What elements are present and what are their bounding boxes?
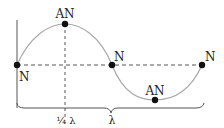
antinode-label-top: AN bbox=[54, 7, 74, 21]
node-label-middle: N bbox=[114, 50, 125, 64]
antinode-dot-top bbox=[62, 21, 68, 27]
standing-wave-diagram: N N N AN AN ¼ λ λ bbox=[0, 0, 224, 128]
quarter-wavelength-label: ¼ λ bbox=[56, 115, 76, 126]
wave-curve bbox=[17, 24, 202, 100]
node-label-right: N bbox=[205, 50, 216, 64]
node-dot-left bbox=[14, 62, 20, 68]
wavelength-brace bbox=[17, 103, 204, 113]
antinode-label-bottom: AN bbox=[144, 84, 164, 98]
node-label-left: N bbox=[19, 70, 30, 84]
wavelength-label: λ bbox=[109, 114, 116, 127]
